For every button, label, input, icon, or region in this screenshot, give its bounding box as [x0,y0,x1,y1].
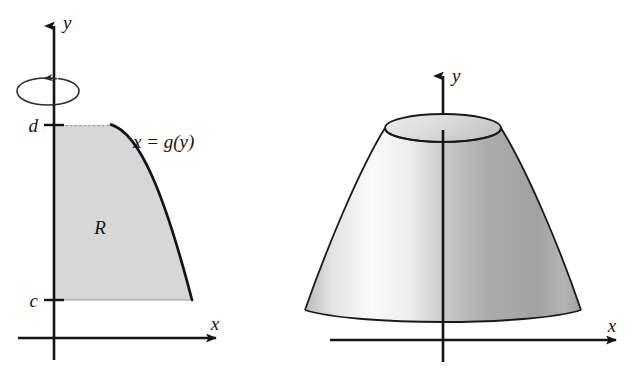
y-axis-label-right: y [450,65,461,86]
region-panel: y x d c R x = g(y) [17,12,220,360]
x-axis-label-right: x [607,315,617,336]
solid-panel: y x [305,65,617,362]
x-axis-label-left: x [210,313,220,334]
label-upper-bound-d: d [29,115,39,136]
rotation-arrow-icon [17,78,79,105]
label-region-r: R [93,217,106,238]
figure-canvas: y x d c R x = g(y) y x [0,0,640,382]
y-axis-label-left: y [61,12,72,33]
label-curve-equation: x = g(y) [132,131,194,153]
label-lower-bound-c: c [30,290,39,311]
revolution-figure: y x d c R x = g(y) y x [0,0,640,382]
